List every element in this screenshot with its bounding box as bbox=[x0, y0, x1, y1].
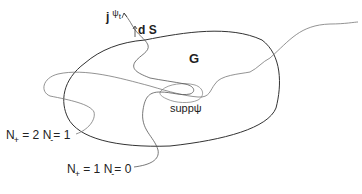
path1-winding-label: N+ = 2 N-= 1 bbox=[6, 129, 70, 141]
current-density-label: jψt bbox=[106, 11, 121, 23]
support-region bbox=[160, 84, 203, 103]
current-superscript-sub: t bbox=[119, 12, 121, 21]
region-label: G bbox=[189, 52, 199, 65]
diagram-canvas bbox=[0, 0, 362, 194]
n-minus-value: = 1 bbox=[53, 128, 70, 142]
trajectory-path-1 bbox=[44, 22, 358, 134]
current-base: j bbox=[106, 10, 109, 24]
n-plus-subscript: + bbox=[75, 169, 80, 179]
path2-winding-label: N+ = 1 N-= 0 bbox=[67, 163, 131, 175]
region-g-boundary bbox=[64, 31, 280, 146]
surface-element-label: d S bbox=[138, 24, 157, 36]
n-minus-subscript: - bbox=[111, 169, 114, 179]
current-superscript: ψ bbox=[112, 8, 118, 18]
n-plus-subscript: + bbox=[14, 135, 19, 145]
n-minus-value: = 0 bbox=[114, 162, 131, 176]
current-arrowhead bbox=[122, 13, 127, 18]
support-label: suppψ bbox=[170, 103, 202, 114]
n-plus-value: = 1 bbox=[83, 162, 100, 176]
trajectory-path-2 bbox=[124, 13, 194, 167]
n-plus-value: = 2 bbox=[22, 128, 39, 142]
n-minus-subscript: - bbox=[50, 135, 53, 145]
